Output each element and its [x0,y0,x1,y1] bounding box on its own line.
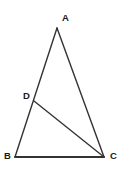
vertex-label-a: A [62,13,69,23]
triangle-diagram-canvas [0,0,123,174]
geometry-figure: A B C D [0,0,123,174]
vertex-label-d: D [23,91,30,101]
vertex-label-b: B [4,151,11,161]
segment-AB [15,28,57,157]
vertex-label-c: C [110,151,117,161]
